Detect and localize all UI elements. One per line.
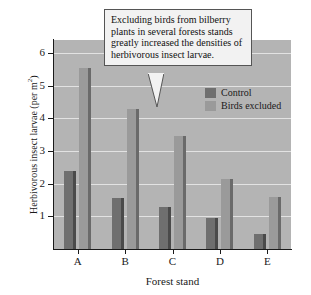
bar-A-control <box>64 171 76 249</box>
x-axis-title: Forest stand <box>54 275 291 287</box>
plot-area <box>54 40 291 249</box>
legend: Control Birds excluded <box>205 86 281 112</box>
y-tick-label-3: 3 <box>40 145 46 156</box>
legend-label-birds-excluded: Birds excluded <box>221 100 281 111</box>
y-tick-6 <box>48 53 54 54</box>
x-tick-E <box>267 250 268 254</box>
legend-item-control: Control <box>205 86 281 99</box>
bar-B-control <box>112 198 124 249</box>
y-tick-5 <box>48 86 54 87</box>
annotation-callout: Excluding birds from bilberry plants in … <box>104 9 252 66</box>
x-tick-label-E: E <box>252 255 282 267</box>
legend-item-birds-excluded: Birds excluded <box>205 99 281 112</box>
bar-E-control <box>254 234 266 249</box>
x-tick-B <box>125 250 126 254</box>
bar-D-control <box>206 218 218 249</box>
legend-swatch-control <box>205 88 216 98</box>
y-tick-label-2: 2 <box>40 178 46 189</box>
x-tick-label-C: C <box>158 255 188 267</box>
x-tick-C <box>173 250 174 254</box>
bar-C-control <box>159 207 171 249</box>
y-tick-label-4: 4 <box>40 112 46 123</box>
y-axis-title-exponent: 2 <box>26 79 34 83</box>
annotation-callout-tail <box>148 73 164 107</box>
bar-B-birds-excluded <box>127 109 139 249</box>
bar-A-birds-excluded <box>79 68 91 249</box>
y-axis-title-close: ) <box>28 75 39 78</box>
y-tick-label-1: 1 <box>40 210 46 221</box>
y-axis-title-text: Herbivorous insect larvae (per m <box>28 82 39 214</box>
y-tick-1 <box>48 216 54 217</box>
y-tick-3 <box>48 151 54 152</box>
x-tick-D <box>220 250 221 254</box>
y-tick-4 <box>48 118 54 119</box>
y-tick-2 <box>48 184 54 185</box>
annotation-callout-text: Excluding birds from bilberry plants in … <box>111 14 245 60</box>
y-tick-label-6: 6 <box>40 47 46 58</box>
bar-chart-figure: 123456ABCDE Herbivorous insect larvae (p… <box>0 0 311 295</box>
legend-label-control: Control <box>221 87 252 98</box>
y-axis-line <box>53 39 54 250</box>
y-axis-title: Herbivorous insect larvae (per m2) <box>25 45 38 245</box>
x-tick-label-D: D <box>205 255 235 267</box>
legend-swatch-birds-excluded <box>205 101 216 111</box>
y-tick-label-5: 5 <box>40 80 46 91</box>
x-tick-label-A: A <box>63 255 93 267</box>
bar-C-birds-excluded <box>174 136 186 249</box>
bar-D-birds-excluded <box>221 179 233 249</box>
bar-E-birds-excluded <box>269 197 281 249</box>
x-tick-label-B: B <box>110 255 140 267</box>
x-tick-A <box>78 250 79 254</box>
